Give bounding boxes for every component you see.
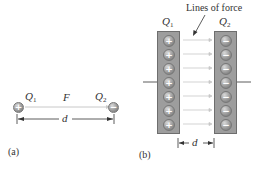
positive-charge-icon: + bbox=[163, 49, 175, 61]
negative-charge-icon: − bbox=[220, 63, 232, 75]
lines-of-force-annotation: Lines of force bbox=[186, 3, 242, 13]
positive-charge-icon: + bbox=[163, 77, 175, 89]
label-plate-q1: Q1 bbox=[162, 16, 173, 29]
positive-charge-icon: + bbox=[163, 91, 175, 103]
positive-plate: + + + + + + + bbox=[157, 31, 180, 134]
positive-charge-icon: + bbox=[163, 35, 175, 47]
negative-charge-icon: − bbox=[220, 105, 232, 117]
label-distance-b: d bbox=[192, 137, 198, 148]
negative-plate: − − − − − − − bbox=[214, 31, 237, 134]
negative-charge-icon: − bbox=[220, 35, 232, 47]
caption-b: (b) bbox=[139, 150, 151, 160]
negative-charge-icon: − bbox=[220, 49, 232, 61]
negative-charge-icon: − bbox=[220, 119, 232, 131]
positive-charge-icon: + bbox=[163, 105, 175, 117]
label-plate-q2: Q2 bbox=[219, 16, 230, 29]
positive-charge-icon: + bbox=[163, 119, 175, 131]
negative-charge-icon: − bbox=[220, 77, 232, 89]
negative-charge-icon: − bbox=[220, 91, 232, 103]
positive-charge-icon: + bbox=[163, 63, 175, 75]
